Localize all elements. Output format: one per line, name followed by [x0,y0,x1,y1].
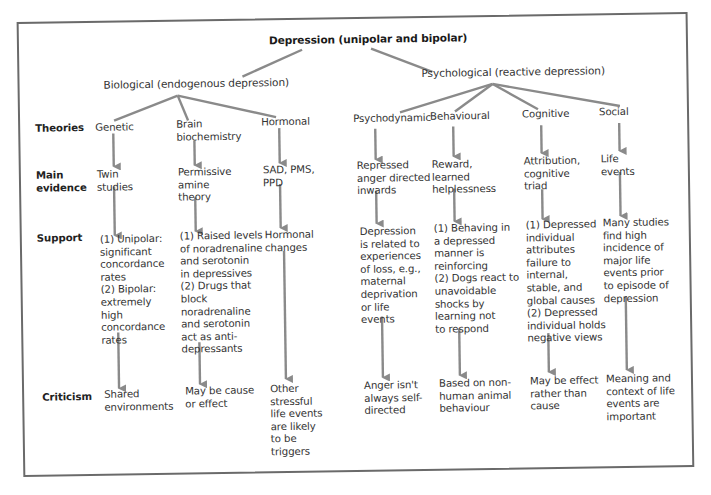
criticism-psychodynamic: Anger isn't always self- directed [364,379,423,418]
title-to-biological-line [242,50,302,77]
evidence-hormonal: SAD, PMS, PPD [263,164,315,190]
evidence-psychodynamic: Repressed anger directed inwards [357,159,431,198]
row-label-main-evidence: Main evidence [36,169,87,195]
diagram-stage: Depression (unipolar and bipolar) Biolog… [0,0,711,495]
support-behavioural: (1) Behaving in a depressed manner is re… [434,222,520,337]
psych-to-behavioural-line [455,84,493,112]
theory-cognitive: Cognitive [522,108,570,121]
criticism-hormonal: Other stressful life events are likely t… [270,383,323,459]
criticism-genetic: Shared environments [104,388,173,414]
support-psychodynamic: Depression is related to experiences of … [360,225,422,327]
theory-behavioural: Behavioural [430,110,490,123]
row-label-support: Support [37,232,83,245]
bio-to-hormonal-line [178,94,276,118]
bio-to-genetic-line [114,96,178,121]
evidence-cognitive: Attribution, cognitive triad [524,155,581,194]
evidence-brain-biochemistry: Permissive amine theory [178,166,232,205]
criticism-behavioural: Based on non- human animal behaviour [439,377,512,416]
criticism-cognitive: May be effect rather than cause [530,374,599,413]
support-genetic: (1) Unipolar: significant concordance ra… [100,233,166,347]
row-label-theories: Theories [35,122,84,135]
theory-psychodynamic: Psychodynamic [353,112,431,126]
evidence-behavioural: Reward, learned helplessness [432,158,496,197]
bio-to-brain-line [178,95,188,120]
theory-hormonal: Hormonal [261,116,310,129]
support-cognitive: (1) Depressed individual attributes fail… [526,218,606,345]
criticism-brain-biochemistry: May be cause or effect [185,385,254,411]
support-social: Many studies find high incidence of majo… [603,216,671,305]
evidence-social: Life events [601,153,635,179]
theory-social: Social [599,106,629,119]
evidence-genetic: Twin studies [97,168,133,194]
criticism-social: Meaning and context of life events are i… [606,372,675,423]
theory-genetic: Genetic [95,121,134,134]
row-label-criticism: Criticism [42,391,92,404]
psych-to-psychodynamic-line [400,84,493,112]
support-brain-biochemistry: (1) Raised levels of noradrenaline and s… [180,229,265,356]
support-hormonal: Hormonal changes [265,229,314,255]
theory-brain-biochemistry: Brain biochemistry [176,118,241,144]
